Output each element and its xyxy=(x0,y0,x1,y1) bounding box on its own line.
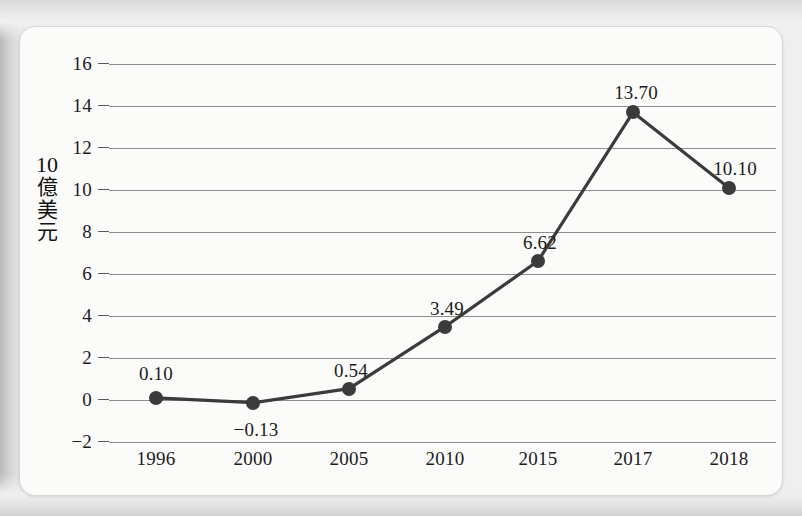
data-label-2018: 10.10 xyxy=(713,158,757,180)
data-point-2000[interactable] xyxy=(246,396,260,410)
data-label-2005: 0.54 xyxy=(334,360,368,382)
x-tick-label-2018: 2018 xyxy=(709,448,748,470)
data-label-2000: −0.13 xyxy=(234,419,279,441)
data-label-2010: 3.49 xyxy=(430,298,464,320)
data-point-1996[interactable] xyxy=(149,391,163,405)
x-tick-label-2000: 2000 xyxy=(233,448,272,470)
data-label-1996: 0.10 xyxy=(139,363,173,385)
x-tick-label-1996: 1996 xyxy=(136,448,175,470)
data-label-2015: 6.62 xyxy=(523,232,557,254)
line-chart-plot: 10 億 美 元 16 14 12 10 xyxy=(20,27,782,495)
chart-card: 10 億 美 元 16 14 12 10 xyxy=(19,26,783,496)
data-point-2005[interactable] xyxy=(342,382,356,396)
data-point-2018[interactable] xyxy=(722,181,736,195)
data-point-2010[interactable] xyxy=(438,320,452,334)
data-series-line xyxy=(20,27,782,495)
x-tick-label-2010: 2010 xyxy=(425,448,464,470)
data-point-2015[interactable] xyxy=(531,254,545,268)
x-tick-label-2015: 2015 xyxy=(518,448,557,470)
x-tick-label-2017: 2017 xyxy=(613,448,652,470)
data-point-2017[interactable] xyxy=(626,105,640,119)
x-tick-label-2005: 2005 xyxy=(329,448,368,470)
data-label-2017: 13.70 xyxy=(614,82,658,104)
